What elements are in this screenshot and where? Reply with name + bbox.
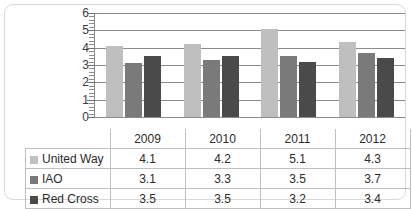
legend-label: Red Cross [42,192,99,206]
bar-series-layer [95,13,405,117]
y-tick-label: 2 [63,77,89,87]
year-header-cell: 2010 [185,129,260,149]
bar [261,29,278,117]
data-cell: 3.1 [110,169,185,189]
y-major-tick [87,82,95,83]
bar [358,53,375,117]
bar [125,63,142,117]
bar [280,56,297,117]
legend-cell: IAO [26,169,111,189]
legend-label: United Way [42,152,104,166]
chart-plot-region: 6543210 [5,7,407,129]
data-cell: 3.4 [335,189,410,207]
legend-cell: United Way [26,149,111,169]
table-row-years: 2009201020112012 [26,129,411,149]
data-cell: 4.1 [110,149,185,169]
y-major-tick [87,13,95,14]
y-tick-label: 6 [63,8,89,18]
y-axis-tick-labels: 6543210 [63,13,89,117]
data-cell: 3.5 [185,189,260,207]
data-cell: 3.2 [260,189,335,207]
table-row: IAO3.13.33.53.7 [26,169,411,189]
table-row: United Way4.14.25.14.3 [26,149,411,169]
legend-cell: Red Cross [26,189,111,207]
bar [184,44,201,117]
y-major-tick [87,100,95,101]
table-corner-cell [26,129,111,149]
year-header-cell: 2012 [335,129,410,149]
legend-swatch-icon [30,156,38,164]
year-header-cell: 2011 [260,129,335,149]
bar-group [328,13,406,117]
data-cell: 3.5 [110,189,185,207]
y-tick-label: 5 [63,25,89,35]
bar [377,58,394,117]
data-cell: 3.7 [335,169,410,189]
y-tick-label: 3 [63,60,89,70]
legend-swatch-icon [30,176,38,184]
y-tick-label: 0 [63,112,89,122]
bar-group [95,13,173,117]
data-cell: 4.3 [335,149,410,169]
bar [203,60,220,117]
chart-frame: 6543210 2009201020112012United Way4.14.2… [4,4,406,200]
chart-data-table: 2009201020112012United Way4.14.25.14.3IA… [25,129,411,206]
bar [222,56,239,117]
bar-group [250,13,328,117]
y-tick-label: 1 [63,95,89,105]
data-cell: 3.3 [185,169,260,189]
legend-label: IAO [42,172,63,186]
y-major-tick [87,48,95,49]
bar [106,46,123,117]
bar [144,56,161,117]
y-tick-label: 4 [63,43,89,53]
data-cell: 3.5 [260,169,335,189]
data-cell: 4.2 [185,149,260,169]
data-cell: 5.1 [260,149,335,169]
bar [299,62,316,117]
table-row: Red Cross3.53.53.23.4 [26,189,411,207]
y-major-tick [87,65,95,66]
y-major-tick [87,30,95,31]
legend-swatch-icon [30,196,38,204]
bar-group [173,13,251,117]
gridline [95,117,405,118]
y-major-tick [87,117,95,118]
year-header-cell: 2009 [110,129,185,149]
bar [339,42,356,117]
